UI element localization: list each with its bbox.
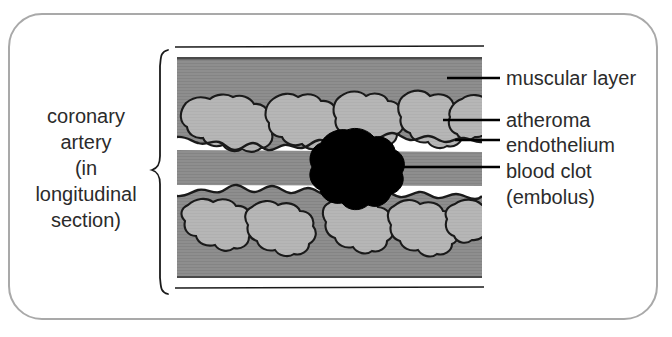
label-coronary-artery: coronary artery (in longitudinal section… [24,103,148,233]
section-top-rule [175,46,484,47]
label-muscular-layer: muscular layer [506,66,636,91]
section-bottom-rule [175,287,484,288]
figure-page: coronary artery (in longitudinal section… [0,0,672,337]
atheroma-plaque-lower-5 [446,200,489,243]
label-blood-clot: blood clot (embolus) [506,158,595,210]
muscular-layer-bottom-edge [177,276,482,279]
label-endothelium: endothelium [506,133,615,158]
label-atheroma: atheroma [506,108,591,133]
coronary-artery-brace [152,50,168,294]
muscular-layer-top-edge [177,57,482,60]
atheroma-plaque-upper-5 [449,95,493,140]
